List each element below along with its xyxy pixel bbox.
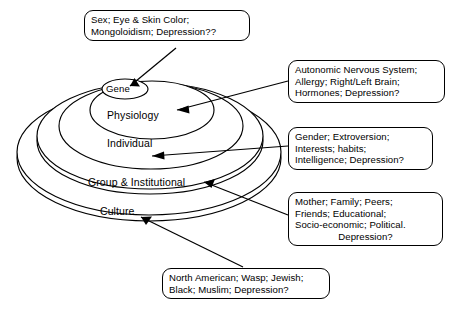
callout-individual-line-3: Intelligence; Depression? [295, 154, 426, 166]
callout-gene[interactable]: Sex; Eye & Skin Color; Mongoloidism; Dep… [84, 10, 250, 41]
callout-group-line-3: Socio-economic; Political. [295, 219, 436, 231]
diagram-canvas: Gene Physiology Individual Group & Insti… [0, 0, 467, 324]
callout-physiology[interactable]: Autonomic Nervous System; Allergy; Right… [288, 60, 445, 103]
callout-culture-line-1: North American; Wasp; Jewish; [169, 272, 323, 284]
callout-culture-line-2: Black; Muslim; Depression? [169, 284, 323, 296]
ring-label-group: Group & Institutional [88, 177, 185, 188]
callout-individual[interactable]: Gender; Extroversion; Interests; habits;… [288, 127, 433, 170]
ring-label-individual: Individual [107, 138, 152, 149]
callout-physiology-line-2: Allergy; Right/Left Brain; [295, 76, 438, 88]
callout-culture[interactable]: North American; Wasp; Jewish; Black; Mus… [162, 268, 330, 299]
arrow-to-culture [141, 217, 243, 268]
callout-gene-line-1: Sex; Eye & Skin Color; [91, 14, 243, 26]
callout-individual-line-1: Gender; Extroversion; [295, 131, 426, 143]
ring-label-culture: Culture [100, 206, 135, 217]
callout-individual-line-2: Interests; habits; [295, 143, 426, 155]
callout-physiology-line-1: Autonomic Nervous System; [295, 64, 438, 76]
callout-group[interactable]: Mother; Family; Peers; Friends; Educatio… [288, 192, 443, 246]
callout-gene-line-2: Mongoloidism; Depression?? [91, 26, 243, 38]
callout-physiology-line-3: Hormones; Depression? [295, 87, 438, 99]
ring-label-gene: Gene [106, 83, 130, 94]
callout-group-line-1: Mother; Family; Peers; [295, 196, 436, 208]
callout-group-line-2: Friends; Educational; [295, 208, 436, 220]
ring-label-physiology: Physiology [107, 110, 159, 121]
callout-group-line-4: Depression? [295, 231, 436, 243]
